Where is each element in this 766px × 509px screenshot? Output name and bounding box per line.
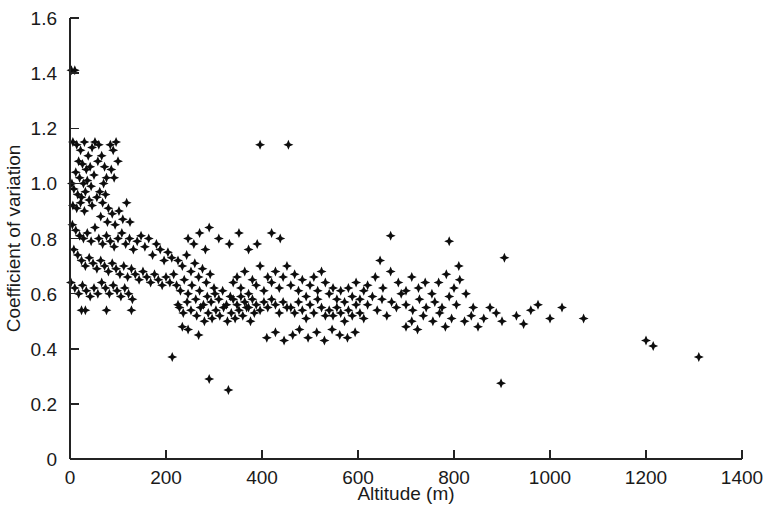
- x-axis-tick-label: 0: [65, 467, 76, 488]
- data-point: [473, 322, 483, 332]
- data-point: [343, 283, 353, 293]
- data-point: [290, 269, 300, 279]
- data-point: [444, 236, 454, 246]
- data-point: [98, 198, 108, 208]
- data-point: [194, 272, 204, 282]
- data-point: [126, 305, 136, 315]
- data-point: [491, 308, 501, 318]
- y-axis-tick-label: 0: [46, 449, 57, 470]
- data-point: [293, 286, 303, 296]
- data-point: [485, 302, 495, 312]
- data-point: [204, 222, 214, 232]
- data-point: [125, 217, 135, 227]
- data-point: [340, 297, 350, 307]
- data-point: [347, 291, 357, 301]
- data-point: [393, 278, 403, 288]
- data-point: [440, 322, 450, 332]
- data-point: [309, 308, 319, 318]
- x-axis-tick-label: 200: [150, 467, 182, 488]
- data-point: [466, 311, 476, 321]
- data-point: [255, 261, 265, 271]
- data-point: [407, 272, 417, 282]
- data-point: [182, 297, 192, 307]
- data-point: [267, 228, 277, 238]
- data-point: [340, 316, 350, 326]
- data-point: [204, 374, 214, 384]
- data-point: [313, 286, 323, 296]
- data-point: [191, 294, 201, 304]
- data-point: [375, 256, 385, 266]
- data-point: [641, 335, 651, 345]
- data-point: [205, 269, 215, 279]
- x-axis-tick-label: 1400: [721, 467, 763, 488]
- data-point: [327, 324, 337, 334]
- data-point: [262, 333, 272, 343]
- data-point: [441, 269, 451, 279]
- data-point: [297, 275, 307, 285]
- data-point: [186, 267, 196, 277]
- data-point: [259, 286, 269, 296]
- data-point: [255, 140, 265, 150]
- data-point: [274, 283, 284, 293]
- data-point: [194, 330, 204, 340]
- data-point: [336, 286, 346, 296]
- y-axis-title: Coefficient of variation: [3, 145, 24, 333]
- data-point: [305, 300, 315, 310]
- data-point: [309, 272, 319, 282]
- data-point: [430, 297, 440, 307]
- data-point: [192, 311, 202, 321]
- data-point: [128, 245, 138, 255]
- data-point: [96, 211, 106, 221]
- data-point: [183, 289, 193, 299]
- data-point: [387, 297, 397, 307]
- data-point: [533, 300, 543, 310]
- data-point: [293, 297, 303, 307]
- data-point: [461, 289, 471, 299]
- data-point: [222, 316, 232, 326]
- data-point: [496, 378, 506, 388]
- data-point: [511, 311, 521, 321]
- data-point: [195, 228, 205, 238]
- data-point: [113, 156, 123, 166]
- data-point: [140, 242, 150, 252]
- data-point: [144, 234, 154, 244]
- y-axis-tick-label: 0.6: [31, 284, 57, 305]
- data-point: [199, 316, 209, 326]
- data-point: [279, 335, 289, 345]
- data-point: [270, 267, 280, 277]
- axis-labels-layer: 00.20.40.60.81.01.21.41.6020040060080010…: [3, 8, 763, 504]
- data-point: [183, 234, 193, 244]
- data-point: [454, 261, 464, 271]
- data-point: [335, 330, 345, 340]
- x-axis-tick-label: 400: [246, 467, 278, 488]
- data-point: [79, 137, 89, 147]
- data-point: [200, 245, 210, 255]
- data-point: [377, 294, 387, 304]
- data-point: [118, 214, 128, 224]
- data-point: [579, 313, 589, 323]
- data-point: [195, 286, 205, 296]
- data-point: [342, 333, 352, 343]
- data-point: [119, 261, 129, 271]
- data-point: [110, 220, 120, 230]
- data-point: [386, 231, 396, 241]
- data-point: [159, 256, 169, 266]
- data-point: [179, 275, 189, 285]
- data-point: [418, 311, 428, 321]
- data-point: [428, 316, 438, 326]
- data-point: [218, 286, 228, 296]
- data-point: [303, 333, 313, 343]
- data-point: [460, 316, 470, 326]
- data-point: [370, 272, 380, 282]
- data-point: [386, 267, 396, 277]
- data-point: [252, 239, 262, 249]
- data-point: [122, 198, 132, 208]
- data-point: [102, 217, 112, 227]
- data-point: [320, 278, 330, 288]
- data-point: [317, 302, 327, 312]
- data-point: [240, 267, 250, 277]
- data-point: [234, 228, 244, 238]
- y-axis-tick-label: 1.6: [31, 8, 57, 29]
- data-point: [101, 305, 111, 315]
- scatter-plot-figure: 00.20.40.60.81.01.21.41.6020040060080010…: [0, 0, 766, 509]
